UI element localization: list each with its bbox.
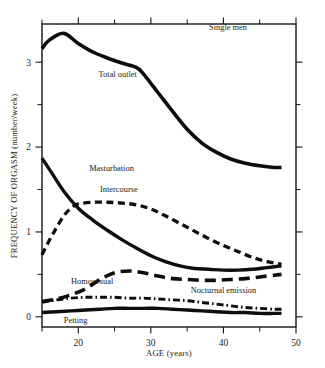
y-tick-label: 3 — [26, 58, 31, 68]
series-line-petting — [42, 308, 281, 313]
series-label-nocturnal-emission: Nocturnal emission — [191, 286, 257, 295]
y-tick-label: 2 — [26, 142, 31, 152]
chart-title: Single men — [209, 23, 248, 32]
series-label-total-outlet: Total outlet — [99, 70, 138, 79]
data-curves — [42, 33, 281, 313]
series-line-total-outlet — [42, 33, 281, 167]
y-tick-label: 0 — [26, 312, 31, 322]
series-label-petting: Petting — [64, 316, 89, 325]
x-axis-ticks — [42, 18, 296, 334]
chart-svg: 20304050 0123 Total outletMasturbationIn… — [0, 0, 325, 368]
series-label-homosexual: Homosexual — [71, 277, 114, 286]
x-axis-tick-labels: 20304050 — [74, 338, 301, 348]
x-tick-label: 50 — [291, 338, 301, 348]
y-tick-label: 1 — [26, 227, 31, 237]
series-line-intercourse — [42, 202, 281, 264]
x-tick-label: 30 — [146, 338, 156, 348]
x-tick-label: 40 — [219, 338, 229, 348]
chart-figure: 20304050 0123 Total outletMasturbationIn… — [0, 0, 325, 368]
series-label-intercourse: Intercourse — [100, 185, 138, 194]
x-axis-title: AGE (years) — [146, 348, 192, 358]
x-tick-label: 20 — [74, 338, 84, 348]
y-axis-title: FREQUENCY OF ORGASM (number/week) — [9, 94, 19, 259]
series-label-masturbation: Masturbation — [89, 164, 134, 173]
series-annotations: Total outletMasturbationIntercourseHomos… — [64, 70, 257, 324]
y-axis-tick-labels: 0123 — [26, 58, 31, 323]
